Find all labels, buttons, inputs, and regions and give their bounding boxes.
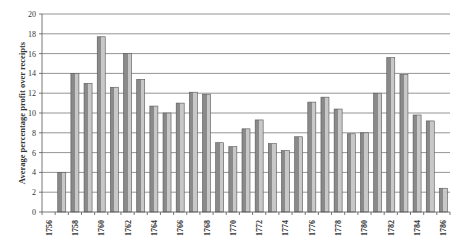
bar-1759 (84, 83, 92, 212)
bar-1780 (360, 133, 368, 212)
bar-1764 (150, 106, 158, 212)
x-tick-label: 1756 (45, 220, 54, 236)
bar-1773 (268, 144, 276, 212)
bar-1772 (255, 120, 263, 212)
bar-1781 (374, 93, 382, 212)
x-tick-label: 1772 (255, 220, 264, 236)
bar-1779 (347, 134, 355, 212)
bar-1762 (124, 54, 132, 212)
bar-1766 (176, 103, 184, 212)
bar-1785 (426, 121, 434, 212)
x-tick-label: 1766 (176, 220, 185, 236)
bar-1765 (163, 113, 171, 212)
x-tick-label: 1758 (71, 220, 80, 236)
x-tick-label: 1768 (203, 220, 212, 236)
x-tick-label: 1760 (97, 220, 106, 236)
bar-1783 (400, 74, 408, 212)
bar-1775 (295, 137, 303, 212)
y-axis-ticks: 02468101214161820 (28, 10, 42, 217)
y-tick-label: 10 (28, 109, 36, 118)
y-tick-label: 0 (32, 208, 36, 217)
x-tick-label: 1762 (124, 220, 133, 236)
bar-1777 (321, 97, 329, 212)
bar-1770 (229, 147, 237, 212)
bar-1771 (242, 129, 250, 212)
bar-1782 (387, 58, 395, 212)
x-tick-label: 1786 (439, 220, 448, 236)
bar-1769 (216, 143, 224, 212)
y-tick-label: 8 (32, 129, 36, 138)
y-tick-label: 14 (28, 69, 36, 78)
x-tick-label: 1780 (360, 220, 369, 236)
y-tick-label: 16 (28, 50, 36, 59)
x-tick-label: 1778 (334, 220, 343, 236)
y-tick-label: 12 (28, 89, 36, 98)
x-tick-label: 1776 (308, 220, 317, 236)
y-axis-label: Average percentage profit over receipts (17, 42, 27, 184)
y-tick-label: 2 (32, 188, 36, 197)
bar-1763 (137, 79, 145, 212)
y-tick-label: 20 (28, 10, 36, 19)
bar-1784 (413, 115, 421, 212)
x-tick-label: 1770 (229, 220, 238, 236)
y-tick-label: 4 (32, 168, 36, 177)
bar-chart: 02468101214161820 1756175817601762176417… (0, 0, 468, 250)
x-tick-label: 1782 (387, 220, 396, 236)
x-tick-label: 1784 (413, 220, 422, 236)
bar-1760 (97, 37, 105, 212)
bars (58, 37, 448, 212)
y-tick-label: 18 (28, 30, 36, 39)
bar-1757 (58, 172, 66, 212)
y-tick-label: 6 (32, 149, 36, 158)
bar-1786 (439, 188, 447, 212)
bar-1767 (189, 92, 197, 212)
bar-1761 (110, 87, 118, 212)
x-tick-label: 1764 (150, 220, 159, 236)
bar-1776 (308, 102, 316, 212)
bar-1758 (71, 73, 79, 212)
bar-1778 (334, 109, 342, 212)
bar-1774 (281, 151, 289, 212)
x-tick-label: 1774 (281, 220, 290, 236)
bar-1768 (203, 94, 211, 212)
x-axis-ticks: 1756175817601762176417661768177017721774… (42, 212, 450, 236)
